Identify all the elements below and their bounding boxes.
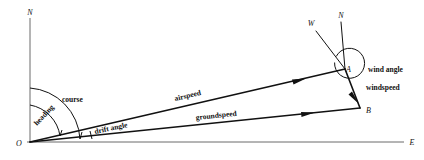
groundspeed-arrowhead: [301, 112, 315, 117]
station-a-wind-label: W: [308, 19, 316, 28]
airspeed-vector: [30, 69, 345, 142]
course-angle-label: course: [62, 95, 83, 104]
label-group: N E O N W A B heading course drift angle…: [16, 8, 415, 148]
airspeed-label: airspeed: [173, 88, 202, 103]
station-a-wind-line: [316, 31, 345, 69]
airspeed-arrowhead: [292, 79, 306, 85]
north-axis-label: N: [26, 8, 33, 17]
course-arc-tick: [80, 132, 82, 139]
wind-triangle-svg: N E O N W A B heading course drift angle…: [0, 0, 424, 160]
station-a-north-line: [341, 22, 345, 69]
point-a-label: A: [345, 65, 351, 74]
east-axis-label: E: [409, 138, 415, 147]
windspeed-label: windspeed: [366, 83, 401, 92]
point-b-label: B: [366, 106, 371, 115]
wind-triangle-diagram: N E O N W A B heading course drift angle…: [0, 0, 424, 160]
windspeed-vector: [345, 69, 360, 108]
origin-point-label: O: [16, 139, 22, 148]
wind-angle-label: wind angle: [368, 65, 403, 74]
groundspeed-label: groundspeed: [195, 109, 238, 122]
station-a-north-label: N: [337, 11, 344, 20]
